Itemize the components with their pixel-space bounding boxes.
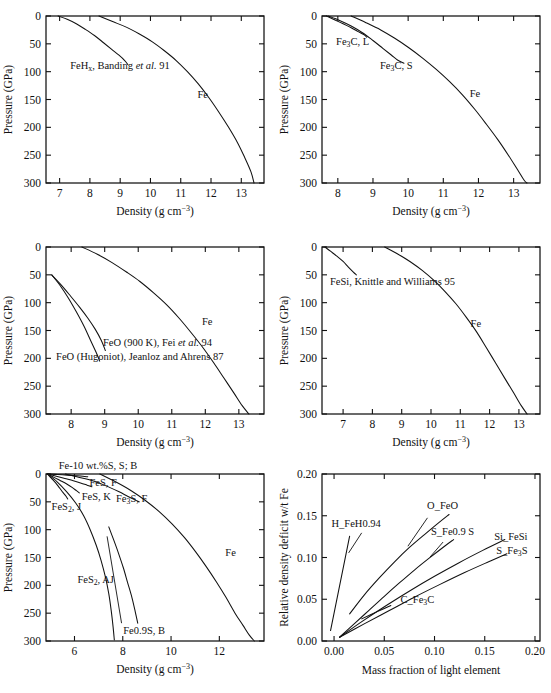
curve-feo-hugoniot-jeanloz-and-ahrens-87 — [52, 275, 100, 361]
curve-label: Fe-10 wt.%S, S; B — [59, 460, 137, 471]
x-tick-label: 9 — [102, 418, 108, 430]
x-tick-label: 0.05 — [374, 645, 394, 657]
x-tick-label: 10 — [132, 418, 144, 430]
x-tick-label: 10 — [402, 187, 414, 199]
curve-label: Si_FeSi — [494, 531, 527, 542]
panel-3: 8910111213050100150200250300Density (g c… — [0, 231, 276, 462]
y-tick-label: 50 — [306, 38, 318, 50]
x-axis-title: Density (g cm−3) — [116, 662, 194, 677]
y-tick-label: 250 — [24, 380, 42, 392]
curve-label: S_Fe0.9 S — [431, 526, 474, 537]
y-tick-label: 50 — [306, 269, 318, 281]
y-tick-label: 0.15 — [297, 510, 317, 522]
curve-label: FeHx, Banding et al. 91 — [70, 60, 170, 73]
curve-label: Fe — [225, 547, 236, 558]
multi-panel-figure: 78910111213050100150200250300Density (g … — [0, 0, 551, 693]
x-tick-label: 7 — [57, 187, 63, 199]
plot-frame — [322, 474, 540, 641]
x-tick-label: 13 — [508, 187, 520, 199]
x-tick-label: 11 — [175, 187, 186, 199]
y-tick-label: 150 — [24, 552, 42, 564]
y-tick-label: 0 — [311, 241, 317, 253]
panel-4: 78910111213050100150200250300Density (g … — [276, 231, 551, 462]
y-tick-label: 0 — [35, 10, 41, 22]
y-tick-label: 250 — [300, 149, 318, 161]
x-tick-label: 12 — [484, 418, 496, 430]
curve-fe — [99, 16, 254, 183]
panel-5-svg: 681012050100150200250300Density (g cm−3)… — [0, 458, 276, 693]
x-axis-title: Density (g cm−3) — [116, 435, 194, 450]
curve-fesi-knittle-and-williams-95 — [325, 247, 356, 275]
panel-6-svg: 0.000.050.100.150.200.000.050.100.150.20… — [276, 458, 551, 693]
x-tick-label: 10 — [145, 187, 157, 199]
label-leader-line — [408, 518, 428, 546]
x-tick-label: 0.20 — [525, 645, 545, 657]
x-tick-label: 12 — [205, 187, 217, 199]
y-tick-label: 200 — [24, 579, 42, 591]
x-tick-label: 8 — [68, 418, 74, 430]
panel-2: 8910111213050100150200250300Density (g c… — [276, 0, 551, 231]
x-tick-label: 13 — [233, 418, 245, 430]
y-tick-label: 300 — [24, 635, 42, 647]
x-tick-label: 11 — [166, 418, 177, 430]
curve-fe3c-l — [327, 16, 367, 37]
y-tick-label: 0.10 — [297, 552, 317, 564]
curve-label: FeS2, J — [52, 501, 82, 514]
curve-label: C_Fe3C — [401, 594, 435, 607]
curve-fe — [351, 16, 527, 183]
x-axis-title: Mass fraction of light element — [362, 664, 501, 677]
y-tick-label: 0.05 — [297, 593, 317, 605]
x-tick-label: 12 — [214, 645, 226, 657]
y-axis-title: Relative density deficit w/t Fe — [278, 488, 291, 627]
panel-1-svg: 78910111213050100150200250300Density (g … — [0, 0, 276, 231]
curve-label: Fe — [197, 89, 208, 100]
x-tick-label: 6 — [72, 645, 78, 657]
x-tick-label: 10 — [425, 418, 437, 430]
x-tick-label: 0.15 — [475, 645, 495, 657]
x-axis-title: Density (g cm−3) — [392, 204, 470, 219]
x-tick-label: 9 — [370, 187, 376, 199]
y-axis-title: Pressure (GPa) — [2, 296, 15, 365]
label-leader-line — [430, 542, 443, 557]
x-tick-label: 10 — [165, 645, 177, 657]
plot-frame — [322, 247, 540, 414]
x-tick-label: 12 — [200, 418, 212, 430]
y-tick-label: 150 — [24, 94, 42, 106]
y-tick-label: 250 — [300, 380, 318, 392]
x-tick-label: 7 — [340, 418, 346, 430]
curve-label: S_Fe3S — [496, 545, 527, 558]
curve-label: FeS, K — [82, 491, 112, 502]
y-tick-label: 250 — [24, 607, 42, 619]
y-tick-label: 0 — [35, 241, 41, 253]
curve-label: Fe — [471, 318, 482, 329]
y-tick-label: 200 — [300, 352, 318, 364]
x-tick-label: 12 — [473, 187, 485, 199]
x-tick-label: 11 — [438, 187, 449, 199]
y-tick-label: 0.20 — [297, 468, 317, 480]
panel-1: 78910111213050100150200250300Density (g … — [0, 0, 276, 231]
plot-frame — [46, 16, 264, 183]
y-tick-label: 50 — [30, 269, 42, 281]
curve-h-feh0-94 — [331, 536, 350, 630]
x-tick-label: 8 — [120, 645, 126, 657]
x-tick-label: 11 — [455, 418, 466, 430]
label-leader-line — [349, 533, 362, 553]
panel-4-svg: 78910111213050100150200250300Density (g … — [276, 231, 551, 462]
curve-label: Fe3C, L — [336, 36, 369, 49]
curve-label: Fe3C, S — [380, 60, 413, 73]
curve-fe — [385, 247, 527, 414]
x-tick-label: 0.10 — [424, 645, 444, 657]
y-tick-label: 100 — [24, 524, 42, 536]
curve-label: FeS2, AJ — [77, 574, 114, 587]
curve-fe — [82, 247, 249, 414]
curve-label: FeSi, Knittle and Williams 95 — [330, 276, 455, 287]
curve-s-fe0-9-s — [340, 540, 454, 638]
panel-3-svg: 8910111213050100150200250300Density (g c… — [0, 231, 276, 462]
x-tick-label: 8 — [370, 418, 376, 430]
curve-label: O_FeO — [427, 500, 458, 511]
y-tick-label: 100 — [300, 297, 318, 309]
y-tick-label: 200 — [24, 352, 42, 364]
y-tick-label: 150 — [300, 325, 318, 337]
panel-2-svg: 8910111213050100150200250300Density (g c… — [276, 0, 551, 231]
x-tick-label: 0.00 — [324, 645, 344, 657]
